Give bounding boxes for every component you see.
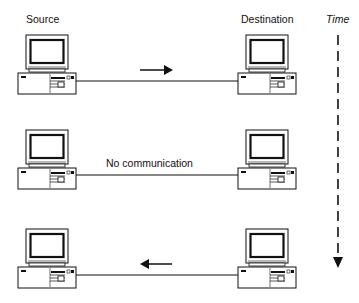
arrow-right-icon bbox=[140, 65, 173, 75]
source-computer-icon bbox=[18, 130, 76, 189]
source-computer-icon bbox=[18, 229, 76, 288]
time-axis-arrow-icon bbox=[333, 35, 343, 268]
row-2 bbox=[18, 130, 296, 189]
row-3 bbox=[18, 229, 296, 288]
arrow-left-icon bbox=[140, 259, 172, 269]
destination-computer-icon bbox=[238, 35, 296, 94]
source-computer-icon bbox=[18, 35, 76, 94]
destination-computer-icon bbox=[238, 130, 296, 189]
row-1 bbox=[18, 35, 296, 94]
diagram-canvas bbox=[0, 0, 359, 303]
destination-computer-icon bbox=[238, 229, 296, 288]
